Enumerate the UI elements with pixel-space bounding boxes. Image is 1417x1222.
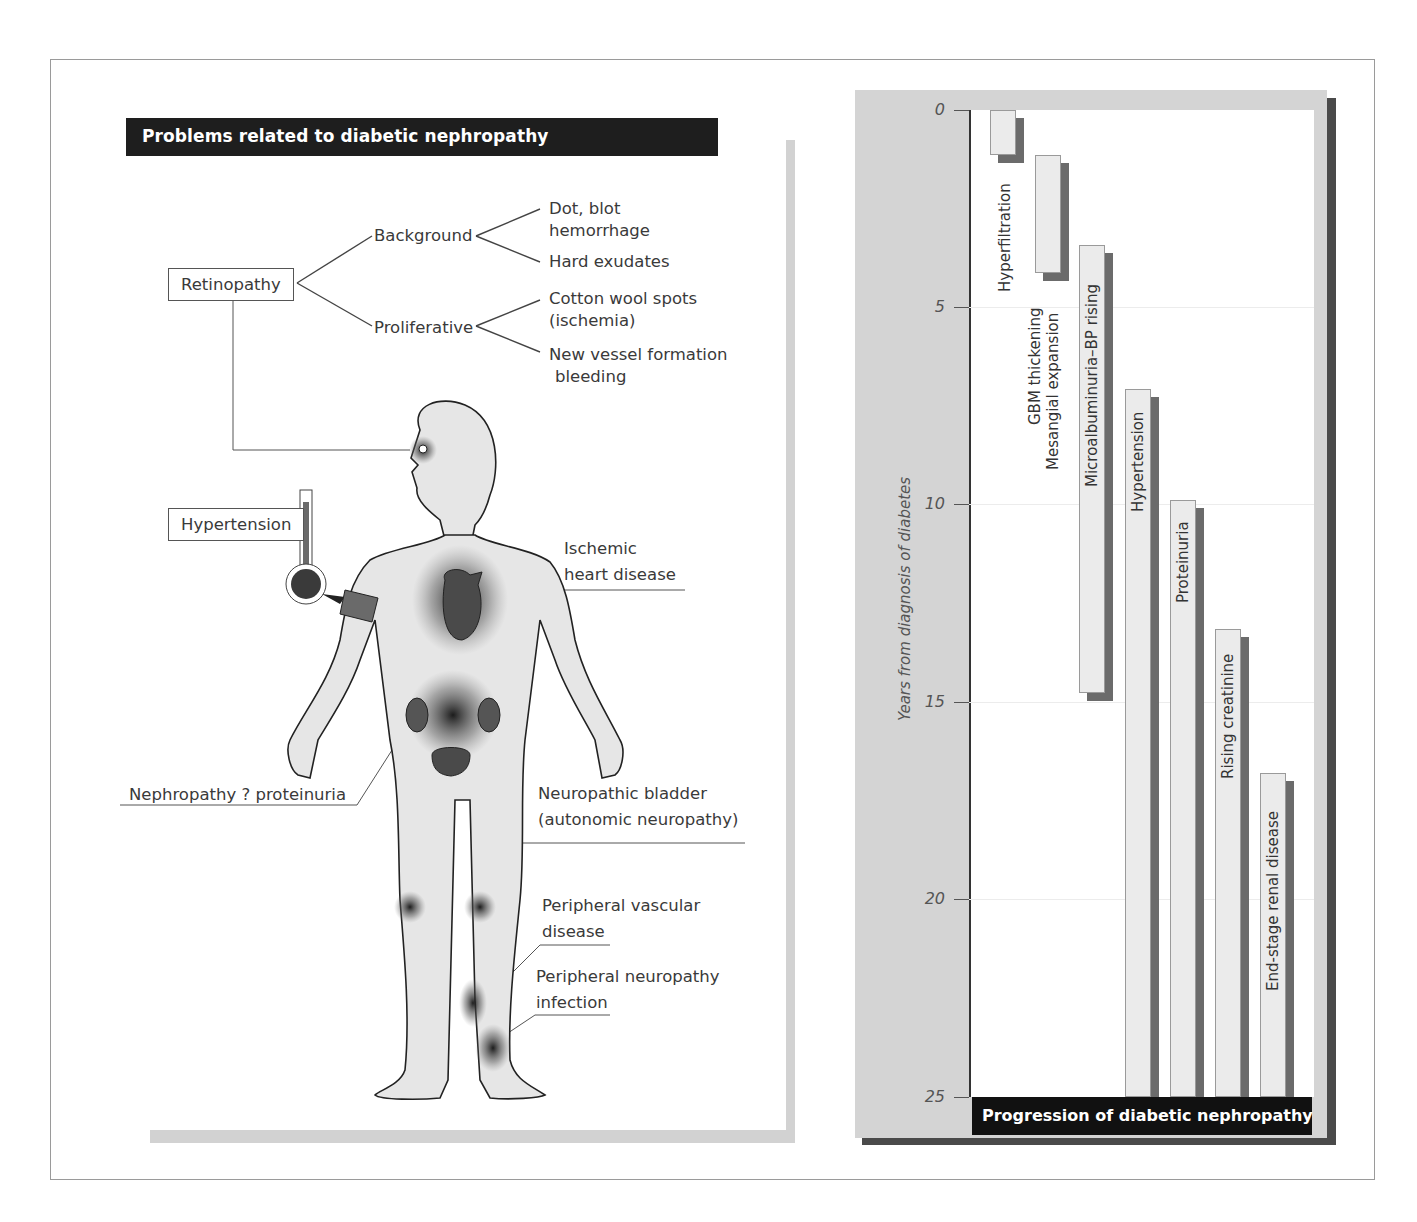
heart-disease-label: heart disease xyxy=(564,563,676,586)
bar-hyperfiltration xyxy=(990,110,1016,155)
infection-label: infection xyxy=(536,991,608,1014)
bar-label-hyperfiltration: Hyperfiltration xyxy=(996,183,1014,292)
ischemic-label: Ischemic xyxy=(564,537,637,560)
dot-blot-label: Dot, blot xyxy=(549,197,620,220)
tick-25 xyxy=(954,1097,969,1098)
hemorrhage-label: hemorrhage xyxy=(549,219,650,242)
new-vessel-label: New vessel formation xyxy=(549,343,728,366)
bar-label-gbm-1: GBM thickening xyxy=(1026,307,1044,425)
chart-title: Progression of diabetic nephropathy xyxy=(972,1097,1312,1135)
y-axis-title: Years from diagnosis of diabetes xyxy=(896,454,914,744)
hard-exudates-label: Hard exudates xyxy=(549,250,670,273)
tick-10 xyxy=(954,504,969,505)
tick-20 xyxy=(954,899,969,900)
tick-label-20: 20 xyxy=(905,889,945,908)
pvd-disease-label: disease xyxy=(542,920,605,943)
bleeding-label: bleeding xyxy=(555,365,626,388)
bar-label-microalbuminuria: Microalbuminuria–BP rising xyxy=(1083,284,1101,487)
tick-0 xyxy=(954,110,969,111)
nephropathy-label: Nephropathy ? proteinuria xyxy=(129,783,346,806)
proliferative-label: Proliferative xyxy=(374,316,473,339)
bar-label-gbm-2: Mesangial expansion xyxy=(1044,313,1062,470)
bar-gbm xyxy=(1035,155,1061,273)
autonomic-label: (autonomic neuropathy) xyxy=(538,808,738,831)
background-label: Background xyxy=(374,224,472,247)
tick-label-25: 25 xyxy=(905,1087,945,1106)
hypertension-box: Hypertension xyxy=(168,508,304,541)
tick-15 xyxy=(954,702,969,703)
pvd-label: Peripheral vascular xyxy=(542,894,700,917)
bar-label-proteinuria: Proteinuria xyxy=(1174,521,1192,603)
cotton-wool-label: Cotton wool spots xyxy=(549,287,697,310)
peripheral-neuropathy-label: Peripheral neuropathy xyxy=(536,965,720,988)
tick-label-0: 0 xyxy=(905,100,945,119)
bar-label-hypertension: Hypertension xyxy=(1129,412,1147,512)
ischemia-label: (ischemia) xyxy=(549,309,636,332)
bar-label-creatinine: Rising creatinine xyxy=(1219,654,1237,779)
tick-5 xyxy=(954,307,969,308)
bladder-label: Neuropathic bladder xyxy=(538,782,707,805)
bar-label-esrd: End-stage renal disease xyxy=(1264,811,1282,991)
retinopathy-box: Retinopathy xyxy=(168,268,294,301)
tick-label-5: 5 xyxy=(905,297,945,316)
gridline-5 xyxy=(969,307,1314,308)
